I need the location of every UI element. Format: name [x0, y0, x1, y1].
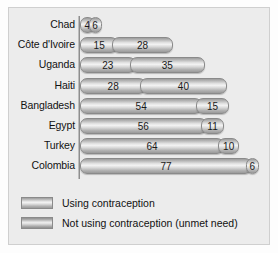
bar-value-unmet: 6: [247, 160, 258, 174]
stacked-bar: 776: [80, 158, 259, 174]
bar-segment-unmet[interactable]: 15: [196, 98, 228, 114]
bar-value-unmet: 40: [141, 80, 225, 94]
category-label: Côte d'Ivoire: [8, 38, 75, 50]
bar-segment-using[interactable]: 56: [80, 118, 207, 134]
stacked-bar: 2335: [80, 57, 205, 73]
bar-segment-using[interactable]: 23: [80, 57, 136, 73]
bar-segment-unmet[interactable]: 6: [246, 158, 259, 174]
stacked-bar: 1528: [80, 37, 173, 53]
chart-figure: Chad46Côte d'Ivoire1528Uganda2335Haiti28…: [8, 7, 270, 245]
bar-segment-using[interactable]: 28: [80, 78, 146, 94]
legend-item-unmet[interactable]: Not using contraception (unmet need): [21, 214, 261, 231]
bar-segment-unmet[interactable]: 28: [112, 37, 172, 53]
bar-segment-using[interactable]: 64: [80, 138, 224, 154]
bar-value-unmet: 35: [131, 59, 204, 73]
bar-segment-unmet[interactable]: 35: [130, 57, 205, 73]
bar-segment-unmet[interactable]: 6: [89, 17, 102, 33]
bar-value-unmet: 15: [197, 100, 227, 114]
bar-value-using: 64: [81, 140, 223, 154]
bar-value-using: 56: [81, 120, 206, 134]
legend-item-using[interactable]: Using contraception: [21, 194, 261, 211]
bar-value-using: 28: [81, 80, 145, 94]
bar-segment-unmet[interactable]: 11: [201, 118, 225, 134]
bar-segment-using[interactable]: 77: [80, 158, 252, 174]
category-label: Bangladesh: [8, 99, 75, 111]
stacked-bar: 5611: [80, 118, 224, 134]
bar-value-unmet: 28: [113, 39, 171, 53]
bar-row: Colombia776: [9, 156, 270, 176]
plot-area: Chad46Côte d'Ivoire1528Uganda2335Haiti28…: [9, 8, 270, 184]
bar-row: Côte d'Ivoire1528: [9, 35, 270, 55]
stacked-bar: 46: [80, 17, 102, 33]
stacked-bar: 5415: [80, 98, 229, 114]
bar-value-using: 23: [81, 59, 135, 73]
category-label: Chad: [8, 18, 75, 30]
bar-segment-unmet[interactable]: 40: [140, 78, 226, 94]
category-label: Egypt: [8, 119, 75, 131]
chart-legend: Using contraception Not using contracept…: [21, 194, 261, 234]
stacked-bar: 6410: [80, 138, 239, 154]
category-label: Turkey: [8, 139, 75, 151]
category-label: Haiti: [8, 79, 75, 91]
bar-row: Uganda2335: [9, 55, 270, 75]
category-label: Colombia: [8, 159, 75, 171]
bar-value-using: 54: [81, 100, 201, 114]
bar-segment-using[interactable]: 54: [80, 98, 202, 114]
bar-value-using: 77: [81, 160, 251, 174]
bar-value-unmet: 6: [90, 19, 101, 33]
bar-row: Bangladesh5415: [9, 96, 270, 116]
category-label: Uganda: [8, 58, 75, 70]
bar-segment-unmet[interactable]: 10: [218, 138, 240, 154]
bar-row: Turkey6410: [9, 136, 270, 156]
bar-value-unmet: 10: [219, 140, 239, 154]
legend-label-unmet: Not using contraception (unmet need): [62, 217, 238, 229]
stacked-bar: 2840: [80, 78, 227, 94]
bar-row: Chad46: [9, 15, 270, 35]
bar-row: Haiti2840: [9, 76, 270, 96]
bar-value-unmet: 11: [202, 120, 224, 134]
bar-row: Egypt5611: [9, 116, 270, 136]
legend-swatch-icon-using: [21, 197, 53, 209]
legend-label-using: Using contraception: [62, 197, 155, 209]
legend-swatch-icon-unmet: [21, 217, 53, 229]
